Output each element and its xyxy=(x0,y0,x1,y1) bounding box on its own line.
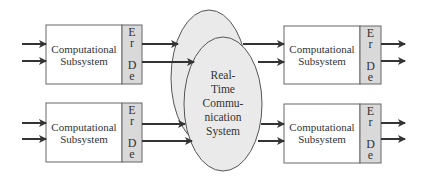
label-line: Subsystem xyxy=(46,55,122,67)
er-de-column-bottom-right: Er De xyxy=(360,106,381,161)
rtcs-line: Commu- xyxy=(188,96,258,110)
rtcs-line: System xyxy=(188,124,258,138)
er-de-column-top-right: Er De xyxy=(360,28,381,83)
subsystem-label-top-right: Computational Subsystem xyxy=(284,43,360,67)
label-line: Subsystem xyxy=(284,55,360,67)
rtcs-line: nication xyxy=(188,110,258,124)
label-line: Subsystem xyxy=(46,133,122,145)
er-label: Er xyxy=(122,27,142,49)
label-line: Subsystem xyxy=(284,133,360,145)
de-label: De xyxy=(122,138,142,160)
label-line: Computational xyxy=(46,43,122,55)
subsystem-label-bottom-left: Computational Subsystem xyxy=(46,121,122,145)
rtcs-line: Time xyxy=(188,82,258,96)
rtcs-label: Real- Time Commu- nication System xyxy=(188,68,258,138)
de-label: De xyxy=(360,139,381,161)
er-label: Er xyxy=(360,28,381,50)
de-label: De xyxy=(122,60,142,82)
label-line: Computational xyxy=(284,121,360,133)
er-de-column-bottom-left: Er De xyxy=(122,105,142,160)
label-line: Computational xyxy=(284,43,360,55)
subsystem-label-bottom-right: Computational Subsystem xyxy=(284,121,360,145)
er-label: Er xyxy=(360,106,381,128)
er-label: Er xyxy=(122,105,142,127)
label-line: Computational xyxy=(46,121,122,133)
de-label: De xyxy=(360,61,381,83)
subsystem-label-top-left: Computational Subsystem xyxy=(46,43,122,67)
er-de-column-top-left: Er De xyxy=(122,27,142,82)
rtcs-line: Real- xyxy=(188,68,258,82)
